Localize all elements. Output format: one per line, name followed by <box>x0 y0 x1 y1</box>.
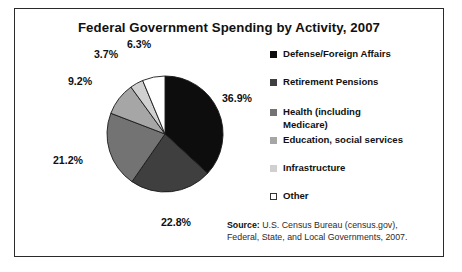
source-label: Source: <box>227 220 260 230</box>
source-note: Source: U.S. Census Bureau (census.gov),… <box>227 220 432 243</box>
pie-slice-percent-label: 36.9% <box>222 92 252 104</box>
pie-slice-percent-label: 6.3% <box>127 38 151 50</box>
legend-swatch-icon <box>270 137 277 144</box>
pie-slice-percent-label: 9.2% <box>68 75 92 87</box>
legend-swatch-icon <box>270 79 277 86</box>
legend-item: Education, social services <box>270 134 403 147</box>
legend-swatch-icon <box>270 109 277 116</box>
legend-swatch-icon <box>270 165 277 172</box>
legend-item-label: Education, social services <box>283 134 403 147</box>
legend-item-label: Defense/Foreign Affairs <box>283 48 391 61</box>
pie-chart: 36.9%22.8%21.2%9.2%3.7%6.3% <box>20 22 270 237</box>
pie-slice-percent-label: 22.8% <box>161 216 191 228</box>
pie-slice-percent-label: 21.2% <box>53 154 83 166</box>
chart-figure: Federal Government Spending by Activity,… <box>0 0 462 272</box>
legend-item-label: Health (including Medicare) <box>283 106 403 131</box>
legend-item: Other <box>270 190 309 203</box>
legend-swatch-icon <box>270 51 277 58</box>
legend-swatch-icon <box>270 193 277 200</box>
legend-item: Infrastructure <box>270 162 345 175</box>
legend-item-label: Retirement Pensions <box>283 76 378 89</box>
pie-slice-percent-label: 3.7% <box>94 48 118 60</box>
legend-item-label: Infrastructure <box>283 162 345 175</box>
legend-item: Retirement Pensions <box>270 76 378 89</box>
legend-item: Defense/Foreign Affairs <box>270 48 391 61</box>
legend-item-label: Other <box>283 190 309 203</box>
pie-chart-svg <box>20 22 270 237</box>
legend-item: Health (including Medicare) <box>270 106 403 131</box>
